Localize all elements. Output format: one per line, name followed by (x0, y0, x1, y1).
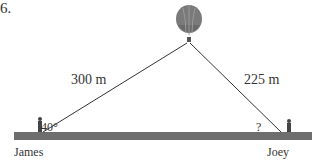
line-james-balloon (43, 43, 187, 132)
problem-number: 6. (0, 0, 11, 17)
left-angle-label: 40° (41, 120, 58, 135)
ground-bar (14, 132, 312, 140)
hot-air-balloon-icon (176, 5, 202, 42)
joey-label: Joey (267, 145, 289, 160)
right-distance-label: 225 m (244, 72, 279, 88)
right-angle-label: ? (256, 120, 261, 135)
left-distance-label: 300 m (71, 72, 106, 88)
james-label: James (14, 145, 43, 160)
joey-figure-icon (287, 119, 291, 132)
